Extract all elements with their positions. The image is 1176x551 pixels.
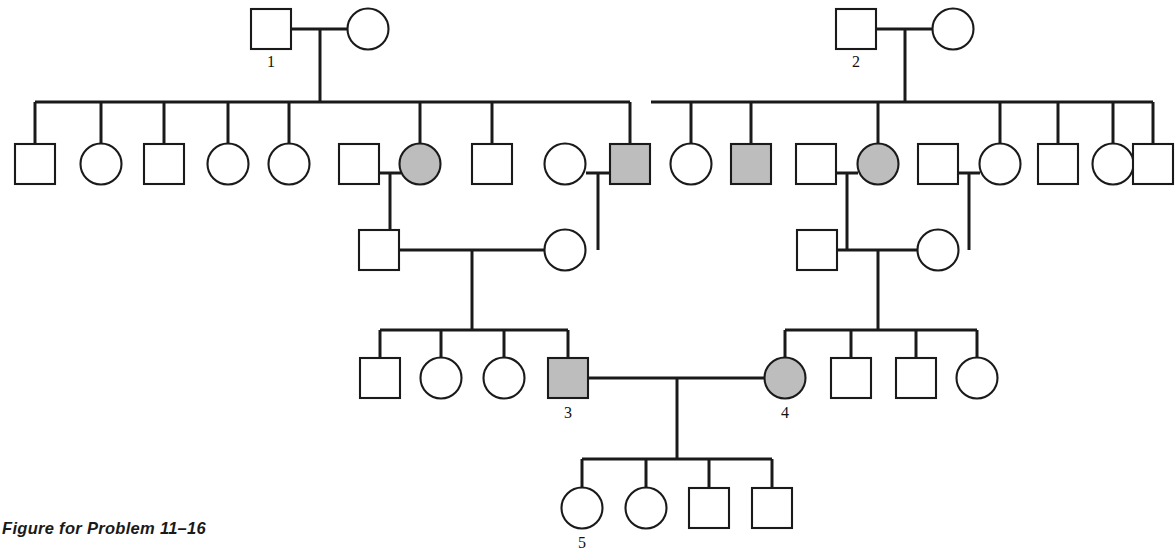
individual-III-2-female-unaffected[interactable] [545, 230, 586, 271]
label-individual-1: 1 [267, 53, 275, 70]
individual-V-2-female-unaffected[interactable] [626, 488, 667, 529]
individual-symbols-layer [15, 9, 1173, 529]
pedigree-figure: 12345 Figure for Problem 11–16 [0, 0, 1176, 551]
individual-III-3-male-unaffected[interactable] [797, 230, 837, 270]
individual-II-11-female-unaffected[interactable] [671, 144, 712, 185]
pedigree-diagram: 12345 [0, 0, 1176, 551]
individual-IV-3-female-unaffected[interactable] [484, 358, 525, 399]
individual-II-3-male-unaffected[interactable] [144, 144, 184, 184]
individual-II-8-male-unaffected[interactable] [472, 144, 512, 184]
individual-II-14-female-affected[interactable] [858, 144, 899, 185]
individual-I-2-female-unaffected[interactable] [348, 9, 389, 50]
individual-IV-1-male-unaffected[interactable] [360, 358, 400, 398]
individual-I-1-male-unaffected[interactable] [251, 9, 291, 49]
individual-IV-4-male-affected[interactable] [548, 358, 588, 398]
individual-II-13-male-unaffected[interactable] [796, 144, 836, 184]
individual-II-7-female-affected[interactable] [400, 144, 441, 185]
label-individual-2: 2 [852, 53, 860, 70]
individual-V-4-male-unaffected[interactable] [752, 488, 792, 528]
individual-II-6-male-unaffected[interactable] [339, 144, 379, 184]
individual-II-18-female-unaffected[interactable] [1093, 144, 1134, 185]
label-individual-4: 4 [781, 404, 789, 421]
label-individual-5: 5 [578, 534, 586, 551]
individual-IV-8-female-unaffected[interactable] [957, 358, 998, 399]
individual-II-17-male-unaffected[interactable] [1038, 144, 1078, 184]
individual-II-5-female-unaffected[interactable] [269, 144, 310, 185]
connector-lines-layer [35, 29, 1153, 489]
individual-III-1-male-unaffected[interactable] [359, 230, 399, 270]
figure-caption: Figure for Problem 11–16 [2, 519, 206, 538]
individual-V-3-male-unaffected[interactable] [689, 488, 729, 528]
individual-II-19-male-unaffected[interactable] [1133, 144, 1173, 184]
individual-II-2-female-unaffected[interactable] [81, 144, 122, 185]
individual-V-1-female-unaffected[interactable] [562, 488, 603, 529]
individual-II-15-male-unaffected[interactable] [918, 144, 958, 184]
individual-II-16-female-unaffected[interactable] [980, 144, 1021, 185]
individual-III-4-female-unaffected[interactable] [918, 230, 959, 271]
individual-II-4-female-unaffected[interactable] [208, 144, 249, 185]
individual-II-9-female-unaffected[interactable] [545, 144, 586, 185]
individual-II-1-male-unaffected[interactable] [15, 144, 55, 184]
individual-IV-7-male-unaffected[interactable] [896, 358, 936, 398]
label-individual-3: 3 [564, 404, 572, 421]
individual-IV-2-female-unaffected[interactable] [421, 358, 462, 399]
individual-IV-6-male-unaffected[interactable] [831, 358, 871, 398]
individual-IV-5-female-affected[interactable] [765, 358, 806, 399]
individual-II-10-male-affected[interactable] [610, 144, 650, 184]
individual-I-3-male-unaffected[interactable] [836, 9, 876, 49]
individual-II-12-male-affected[interactable] [731, 144, 771, 184]
individual-I-4-female-unaffected[interactable] [933, 9, 974, 50]
